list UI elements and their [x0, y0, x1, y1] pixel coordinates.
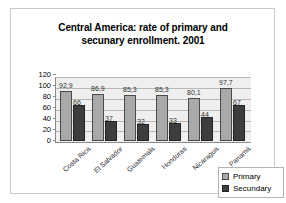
bar-label-primary-honduras: 85,3	[155, 86, 169, 93]
y-tick-label-20: 20	[43, 126, 51, 133]
y-tick-mark-120	[53, 74, 56, 75]
bar-label-primary-costa-rica: 92,9	[59, 82, 73, 89]
bar-group-nicaragua: 80,1 44	[188, 76, 216, 141]
bar-group-guatemala: 85,3 32	[124, 76, 152, 141]
chart-title: Central America: rate of primary and sec…	[25, 21, 261, 47]
bar-label-secondary-guatemala: 32	[137, 118, 145, 125]
bar-secondary-honduras[interactable]	[169, 123, 181, 141]
y-axis: 120 100 80 60 40 20 0	[29, 71, 53, 149]
y-tick-label-80: 80	[43, 93, 51, 100]
legend-label-primary: Primary	[233, 172, 261, 181]
bar-primary-panama[interactable]	[220, 88, 232, 141]
bar-primary-el-salvador[interactable]	[92, 94, 104, 141]
bar-label-secondary-honduras: 33	[169, 117, 177, 124]
legend-item-secondary[interactable]: Secundary	[222, 182, 280, 194]
bars-layer: 92,9 66 86,9 37 85,3	[56, 77, 251, 142]
y-tick-label-120: 120	[38, 71, 51, 78]
bar-label-secondary-panama: 67	[233, 99, 241, 106]
y-tick-label-40: 40	[43, 115, 51, 122]
bar-label-primary-nicaragua: 80,1	[187, 89, 201, 96]
bar-label-secondary-el-salvador: 37	[105, 115, 113, 122]
y-tick-label-100: 100	[38, 82, 51, 89]
bar-primary-nicaragua[interactable]	[188, 98, 200, 141]
legend-swatch-secondary-icon	[222, 185, 229, 192]
bar-secondary-nicaragua[interactable]	[201, 117, 213, 141]
chart-title-line-2: secunary enrollment. 2001	[25, 34, 261, 47]
bar-secondary-el-salvador[interactable]	[105, 121, 117, 141]
legend-swatch-primary-icon	[222, 173, 229, 180]
legend-label-secondary: Secundary	[233, 184, 271, 193]
bar-secondary-panama[interactable]	[233, 105, 245, 141]
y-tick-label-60: 60	[43, 104, 51, 111]
bar-secondary-costa-rica[interactable]	[73, 105, 85, 141]
chart-legend: Primary Secundary	[218, 167, 284, 198]
bar-primary-guatemala[interactable]	[124, 95, 136, 141]
plot-area-wrapper: 92,9 66 86,9 37 85,3	[55, 77, 251, 143]
legend-item-primary[interactable]: Primary	[222, 170, 280, 182]
plot-area: 92,9 66 86,9 37 85,3	[55, 77, 251, 143]
bar-secondary-guatemala[interactable]	[137, 124, 149, 141]
bar-label-secondary-nicaragua: 44	[201, 111, 209, 118]
bar-group-panama: 97,7 67	[220, 76, 248, 141]
y-tick-label-0: 0	[47, 137, 51, 144]
bar-group-costa-rica: 92,9 66	[60, 76, 88, 141]
bar-primary-costa-rica[interactable]	[60, 91, 72, 141]
chart-frame: Central America: rate of primary and sec…	[10, 8, 275, 194]
bar-group-honduras: 85,3 33	[156, 76, 184, 141]
chart-title-line-1: Central America: rate of primary and	[25, 21, 261, 34]
bar-primary-honduras[interactable]	[156, 95, 168, 141]
bar-label-secondary-costa-rica: 66	[73, 99, 81, 106]
chart-screenshot: Central America: rate of primary and sec…	[0, 0, 286, 203]
bar-label-primary-guatemala: 85,3	[123, 86, 137, 93]
bar-group-el-salvador: 86,9 37	[92, 76, 120, 141]
bar-label-primary-el-salvador: 86,9	[91, 85, 105, 92]
bar-label-primary-panama: 97,7	[219, 79, 233, 86]
